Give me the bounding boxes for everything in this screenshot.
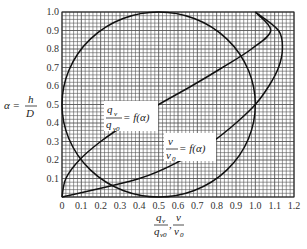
y-tick-label: 1.0 — [47, 6, 60, 17]
svg-text:v: v — [176, 211, 181, 223]
svg-text:= f(α): = f(α) — [123, 111, 150, 124]
y-tick-label: 0.7 — [47, 62, 60, 73]
svg-text:v0: v0 — [113, 125, 120, 133]
svg-text:v: v — [168, 135, 173, 147]
x-tick-label: 0 — [60, 200, 65, 211]
svg-text:α =: α = — [4, 99, 20, 111]
svg-text:0: 0 — [172, 155, 176, 163]
svg-text:v: v — [166, 149, 171, 161]
svg-text:= f(α): = f(α) — [179, 142, 206, 155]
svg-text:q: q — [106, 118, 112, 130]
x-tick-label: 0.6 — [172, 200, 185, 211]
y-tick-label: 0.4 — [47, 117, 60, 128]
grid — [62, 12, 294, 197]
y-axis-label: α = h D — [4, 93, 37, 119]
y-tick-label: 0.6 — [47, 80, 60, 91]
annotation-v: v v0 = f(α) — [164, 133, 216, 163]
svg-text:D: D — [25, 107, 34, 119]
x-tick-label: 0.9 — [230, 200, 243, 211]
y-tick-label: 0.3 — [47, 136, 60, 147]
y-tick-label: 0.5 — [47, 99, 60, 110]
y-tick-label: 0.2 — [47, 154, 60, 165]
x-tick-label: 1.1 — [268, 200, 281, 211]
x-tick-label: 0.7 — [191, 200, 204, 211]
chart: 00.10.20.30.40.50.60.70.80.91.01.11.20.1… — [0, 0, 307, 249]
svg-text:h: h — [28, 93, 34, 105]
x-tick-label: 0.8 — [210, 200, 223, 211]
x-tick-label: 0.2 — [94, 200, 107, 211]
x-tick-label: 0.3 — [114, 200, 127, 211]
x-axis-label: qv qv0 , v v0 — [154, 211, 184, 239]
y-tick-label: 0.8 — [47, 43, 60, 54]
x-tick-label: 0.1 — [75, 200, 88, 211]
y-tick-label: 0.9 — [47, 25, 60, 36]
svg-text:v: v — [162, 217, 166, 225]
x-tick-label: 0.5 — [152, 200, 165, 211]
svg-text:q: q — [107, 103, 113, 115]
x-tick-label: 1.2 — [288, 200, 301, 211]
svg-text:v: v — [174, 225, 179, 237]
y-tick-label: 0.1 — [47, 173, 60, 184]
svg-text:v0: v0 — [160, 231, 167, 239]
annotation-q: qv qv0 = f(α) — [104, 101, 158, 133]
x-tick-label: 1.0 — [249, 200, 262, 211]
tick-labels: 00.10.20.30.40.50.60.70.80.91.01.11.20.1… — [47, 6, 301, 211]
x-tick-label: 0.4 — [133, 200, 146, 211]
svg-text:,: , — [169, 218, 172, 230]
svg-text:0: 0 — [180, 231, 184, 239]
